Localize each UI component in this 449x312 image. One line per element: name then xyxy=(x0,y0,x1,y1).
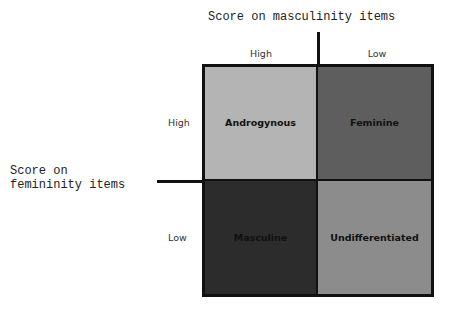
quadrant-grid: Androgynous Feminine Masculine Undiffere… xyxy=(202,64,434,297)
cell-undifferentiated: Undifferentiated xyxy=(318,181,431,295)
cell-androgynous: Androgynous xyxy=(205,67,318,181)
column-header-low: Low xyxy=(319,48,435,59)
row-header-high: High xyxy=(168,117,190,128)
cell-feminine: Feminine xyxy=(318,67,431,181)
row-header-low: Low xyxy=(168,232,187,243)
cell-masculine: Masculine xyxy=(205,181,318,295)
x-axis-title: Score on masculinity items xyxy=(208,10,395,24)
column-header-high: High xyxy=(203,48,319,59)
horizontal-axis-divider xyxy=(157,180,203,183)
y-axis-title: Score on femininity items xyxy=(10,164,125,192)
